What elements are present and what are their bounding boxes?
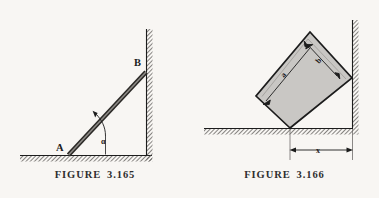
wall-surface — [353, 20, 359, 135]
ground-surface — [20, 156, 152, 162]
label-distance-x: x — [316, 146, 320, 155]
figure-page: A B α FIGURE 3.165 — [0, 0, 379, 198]
figure-3-166-drawing: a b x — [190, 0, 379, 165]
figure-3-166: a b x FIGURE 3.166 — [190, 0, 379, 198]
figure-3-166-caption: FIGURE 3.166 — [190, 169, 379, 180]
figure-3-165-drawing: A B α — [0, 0, 190, 165]
tilted-block — [256, 32, 352, 128]
figure-3-165-caption: FIGURE 3.165 — [0, 169, 190, 180]
ground-surface — [204, 129, 353, 135]
label-point-a: A — [56, 142, 64, 153]
leaning-rod — [69, 72, 147, 155]
label-point-b: B — [134, 57, 141, 68]
label-angle-alpha: α — [101, 137, 106, 146]
figure-3-165: A B α FIGURE 3.165 — [0, 0, 190, 198]
wall-surface — [147, 29, 153, 162]
